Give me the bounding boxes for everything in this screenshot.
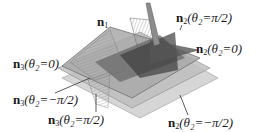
label-n2-pi-half-condition: (θ₂=π/2) bbox=[187, 10, 232, 25]
label-n2-pi-half: n2(θ₂=π/2) bbox=[176, 11, 232, 28]
label-n3-zero-condition: (θ₂=0) bbox=[24, 56, 59, 71]
label-n2-neg-pi-half: n2(θ₂=−π/2) bbox=[168, 116, 233, 132]
label-n3-neg-pi-half: n3(θ₂=−π/2) bbox=[13, 93, 78, 110]
label-n3-pi-half: n3(θ₂=π/2) bbox=[48, 113, 104, 130]
label-n1-subscript: 1 bbox=[104, 21, 108, 30]
leader-n2-neg-pi-half bbox=[180, 95, 188, 115]
label-n3-neg-pi-half-condition: (θ₂=−π/2) bbox=[24, 92, 78, 107]
label-n2-zero: n2(θ₂=0) bbox=[196, 42, 242, 59]
label-n1: n1 bbox=[97, 15, 108, 32]
label-n2-zero-condition: (θ₂=0) bbox=[207, 41, 242, 56]
label-n3-pi-half-condition: (θ₂=π/2) bbox=[59, 112, 104, 127]
diagram-canvas: n1 n2(θ₂=π/2) n3(θ₂=0) n2(θ₂=0) n3(θ₂=−π… bbox=[0, 0, 258, 132]
label-n2-neg-pi-half-condition: (θ₂=−π/2) bbox=[179, 115, 233, 130]
label-n3-zero: n3(θ₂=0) bbox=[13, 57, 59, 74]
